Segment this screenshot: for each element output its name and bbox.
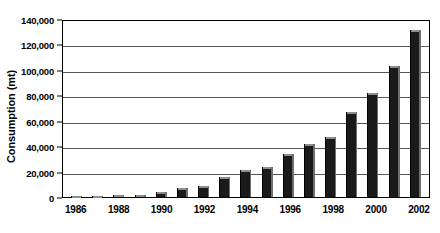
x-slot: 2002 (408, 200, 429, 224)
bar-slot (151, 21, 172, 197)
x-axis-tick-label: 1988 (108, 200, 129, 215)
bar[interactable] (135, 195, 146, 197)
y-axis-tick-label: 80,000 (26, 91, 54, 102)
bar-slot (257, 21, 278, 197)
x-slot: 2001 (387, 200, 408, 224)
bar-slot (66, 21, 87, 197)
y-axis-tick-label: 0 (49, 193, 54, 204)
bar-slot (214, 21, 235, 197)
y-axis-tick-label: 140,000 (21, 15, 54, 26)
bar[interactable] (240, 170, 251, 197)
x-slot: 1996 (280, 200, 301, 224)
x-slot: 1997 (301, 200, 322, 224)
y-axis-tick-labels: 140,000120,000100,00080,00060,00040,0002… (0, 20, 62, 198)
bar[interactable] (177, 188, 188, 197)
bar-slot (193, 21, 214, 197)
bar-slot (108, 21, 129, 197)
x-slot: 1988 (108, 200, 129, 224)
x-slot: 1992 (194, 200, 215, 224)
x-axis-tick-label: 1994 (237, 200, 258, 215)
y-axis-tick-label: 120,000 (21, 40, 54, 51)
x-slot: 1998 (322, 200, 343, 224)
x-axis-tick-label: 1992 (194, 200, 215, 215)
bar[interactable] (346, 112, 357, 197)
bar-slot (320, 21, 341, 197)
x-axis-tick-label: 1996 (280, 200, 301, 215)
bar[interactable] (283, 154, 294, 197)
bar-slot (278, 21, 299, 197)
bar[interactable] (113, 195, 124, 197)
x-slot: 1993 (215, 200, 236, 224)
bar[interactable] (156, 192, 167, 197)
bar[interactable] (325, 137, 336, 197)
x-slot: 1989 (129, 200, 150, 224)
bar[interactable] (92, 196, 103, 198)
bar[interactable] (389, 66, 400, 197)
bar-slot (405, 21, 426, 197)
bar-slot (235, 21, 256, 197)
bar-slot (384, 21, 405, 197)
x-slot: 1991 (172, 200, 193, 224)
x-axis-tick-labels: 1986198719881989199019911992199319941995… (62, 200, 430, 224)
x-slot: 1986 (65, 200, 86, 224)
bar[interactable] (262, 167, 273, 198)
x-axis-tick-label: 1986 (65, 200, 86, 215)
x-slot: 1999 (344, 200, 365, 224)
y-axis-tick-label: 20,000 (26, 167, 54, 178)
bar-slot (341, 21, 362, 197)
bar-slot (130, 21, 151, 197)
bar-slot (299, 21, 320, 197)
x-slot: 1987 (86, 200, 107, 224)
bar-chart: Consumption (mt) 140,000120,000100,00080… (0, 0, 440, 233)
x-slot: 1994 (237, 200, 258, 224)
bar[interactable] (198, 186, 209, 197)
x-slot: 2000 (365, 200, 386, 224)
x-axis-tick-label: 1998 (322, 200, 343, 215)
y-axis-tick-label: 60,000 (26, 116, 54, 127)
x-axis-tick-label: 2002 (408, 200, 429, 215)
x-slot: 1990 (151, 200, 172, 224)
bar[interactable] (304, 144, 315, 197)
y-axis-tick-label: 100,000 (21, 65, 54, 76)
bar[interactable] (219, 177, 230, 197)
bar-series (63, 21, 429, 197)
bar[interactable] (410, 30, 421, 197)
bar-slot (362, 21, 383, 197)
bar[interactable] (367, 93, 378, 197)
bar[interactable] (71, 196, 82, 198)
y-axis-tick-label: 40,000 (26, 142, 54, 153)
plot-area (62, 20, 430, 198)
x-axis-tick-label: 1990 (151, 200, 172, 215)
x-slot: 1995 (258, 200, 279, 224)
x-axis-tick-label: 2000 (365, 200, 386, 215)
bar-slot (172, 21, 193, 197)
bar-slot (87, 21, 108, 197)
